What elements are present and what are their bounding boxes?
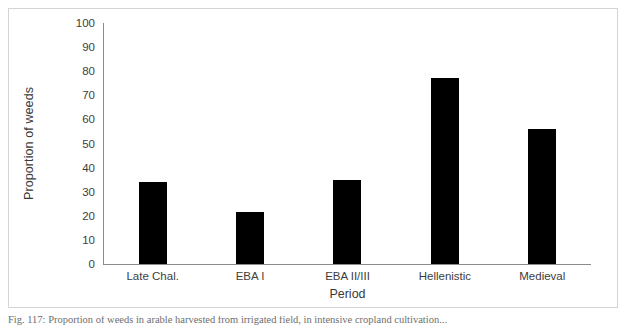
y-axis-tick-labels: 1009080706050403020100 bbox=[49, 9, 101, 309]
y-axis-tick-label: 20 bbox=[82, 209, 95, 223]
x-axis-tick-label: EBA I bbox=[236, 267, 265, 285]
x-axis-tick-label: Medieval bbox=[519, 267, 565, 285]
y-axis-tick-label: 60 bbox=[82, 112, 95, 126]
bar[interactable] bbox=[139, 182, 167, 264]
x-axis-tick-label: EBA II/III bbox=[325, 267, 370, 285]
y-axis-tick-label: 30 bbox=[82, 185, 95, 199]
x-axis-title: Period bbox=[104, 286, 591, 302]
y-axis-tick-label: 100 bbox=[76, 16, 95, 30]
y-axis-tick-label: 40 bbox=[82, 161, 95, 175]
chart-frame: Proportion of weeds 10090807060504030201… bbox=[8, 8, 618, 308]
x-axis-tick-label: Hellenistic bbox=[419, 267, 471, 285]
y-axis-tick-label: 90 bbox=[82, 40, 95, 54]
bar-slot bbox=[396, 23, 493, 264]
bar-slot bbox=[299, 23, 396, 264]
bar-chart: Proportion of weeds 10090807060504030201… bbox=[9, 9, 617, 307]
y-axis-tick-label: 10 bbox=[82, 233, 95, 247]
bar-slot bbox=[104, 23, 201, 264]
bar[interactable] bbox=[236, 212, 264, 264]
figure-caption: Fig. 117: Proportion of weeds in arable … bbox=[8, 316, 620, 329]
bar-slot bbox=[201, 23, 298, 264]
y-axis-tick-label: 80 bbox=[82, 64, 95, 78]
y-axis-tick-label: 50 bbox=[82, 137, 95, 151]
x-axis-tick-label: Late Chal. bbox=[126, 267, 178, 285]
bar[interactable] bbox=[431, 78, 459, 264]
bar-slot bbox=[494, 23, 591, 264]
figure-root: Proportion of weeds 10090807060504030201… bbox=[0, 0, 628, 329]
bar[interactable] bbox=[528, 129, 556, 264]
plot-area bbox=[104, 23, 591, 264]
x-axis-line bbox=[103, 264, 591, 265]
figure-caption-text: Fig. 117: Proportion of weeds in arable … bbox=[8, 316, 620, 326]
y-axis-tick-label: 70 bbox=[82, 88, 95, 102]
y-axis-tick-label: 0 bbox=[89, 257, 95, 271]
bar[interactable] bbox=[333, 180, 361, 264]
x-axis-tick-labels: Late Chal.EBA IEBA II/IIIHellenisticMedi… bbox=[104, 267, 591, 287]
y-axis-title: Proportion of weeds bbox=[21, 23, 37, 264]
